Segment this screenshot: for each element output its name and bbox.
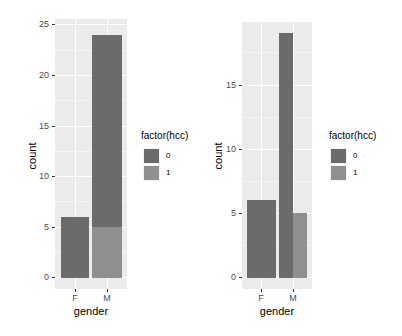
left-xtick-M: M (97, 293, 117, 303)
right-legend-key-0 (330, 148, 347, 164)
bar-left-M-hcc0 (92, 35, 122, 227)
right-x-axis-title: gender (247, 305, 307, 317)
bar-left-M-hcc1 (92, 227, 122, 278)
bar-right-M-hcc1 (293, 213, 307, 278)
left-ytick-5: 5 (29, 222, 49, 232)
bar-right-M-hcc0 (279, 33, 293, 278)
left-plot-panel (55, 19, 127, 289)
left-ytick-20: 20 (29, 70, 49, 80)
left-legend-title: factor(hcc) (141, 130, 188, 142)
bar-right-F-hcc0 (247, 200, 276, 278)
left-ytick-25: 25 (29, 19, 49, 29)
left-x-axis-title: gender (61, 305, 121, 317)
left-legend-key-0 (143, 148, 160, 164)
right-legend-key-1 (330, 165, 347, 181)
right-y-axis-title: count (212, 136, 224, 176)
left-legend-key-1 (143, 165, 160, 181)
right-legend-title: factor(hcc) (329, 130, 376, 142)
bar-left-F-hcc0 (61, 217, 89, 278)
left-legend-label-1: 1 (166, 168, 170, 178)
right-ytick-0: 0 (216, 272, 236, 282)
right-ytick-5: 5 (216, 208, 236, 218)
right-plot-panel (242, 22, 312, 289)
right-legend-label-1: 1 (353, 168, 357, 178)
right-xtick-M: M (283, 293, 303, 303)
right-legend-label-0: 0 (353, 151, 357, 161)
right-ytick-15: 15 (216, 80, 236, 90)
left-ytick-15: 15 (29, 121, 49, 131)
left-xtick-F: F (65, 293, 85, 303)
right-xtick-F: F (251, 293, 271, 303)
left-y-axis-title: count (26, 136, 38, 176)
left-legend-label-0: 0 (166, 151, 170, 161)
left-ytick-0: 0 (29, 272, 49, 282)
